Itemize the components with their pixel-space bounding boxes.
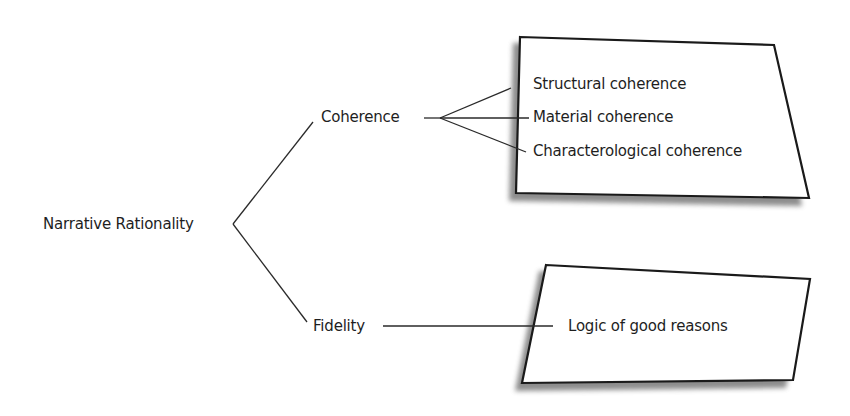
logic-of-good-reasons-label: Logic of good reasons: [568, 317, 728, 335]
coherence-to-structural-line: [440, 88, 511, 118]
coherence-label: Coherence: [321, 108, 400, 126]
diagram-graphics: [0, 0, 850, 416]
characterological-coherence-label: Characterological coherence: [533, 142, 742, 160]
root-to-coherence-line: [233, 122, 313, 224]
root-label: Narrative Rationality: [43, 215, 194, 233]
root-to-fidelity-line: [233, 224, 307, 322]
structural-coherence-label: Structural coherence: [533, 75, 686, 93]
material-coherence-label: Material coherence: [533, 108, 673, 126]
fidelity-label: Fidelity: [313, 317, 365, 335]
narrative-rationality-diagram: Narrative Rationality Coherence Fidelity…: [0, 0, 850, 416]
